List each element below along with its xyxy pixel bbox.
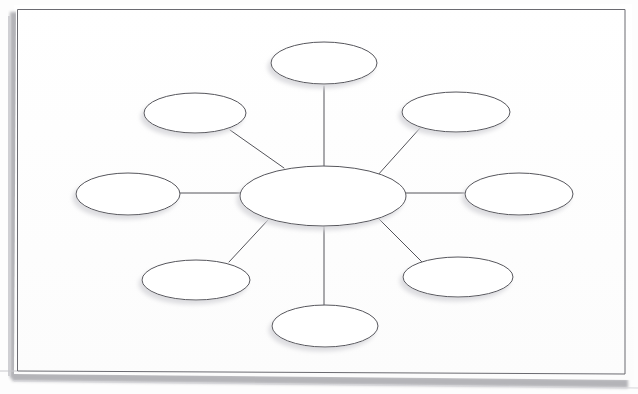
node-top-right[interactable] xyxy=(402,92,510,132)
node-bottom-right[interactable] xyxy=(403,257,513,297)
node-top-left[interactable] xyxy=(144,93,246,133)
node-top[interactable] xyxy=(271,42,377,84)
node-bottom[interactable] xyxy=(272,305,378,347)
node-right[interactable] xyxy=(465,173,573,215)
concept-map-diagram xyxy=(0,0,638,394)
paper-far-left-edge xyxy=(8,16,11,376)
node-left[interactable] xyxy=(76,173,180,215)
screenshot-root: Concept Map Worksheet xyxy=(0,0,638,394)
node-center[interactable] xyxy=(240,166,406,226)
node-bottom-left[interactable] xyxy=(142,260,250,300)
